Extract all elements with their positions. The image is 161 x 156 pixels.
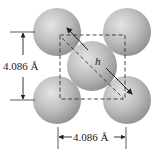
atom-center — [67, 41, 117, 91]
atom-bottom-left — [33, 76, 81, 124]
horizontal-dimension-label: 4.086 Å — [73, 131, 108, 143]
atom-top-left — [33, 8, 81, 56]
atom-top-right — [103, 8, 151, 56]
atom-bottom-right — [103, 76, 151, 124]
diagonal-h-label: h — [95, 55, 101, 67]
vertical-dimension-label: 4.086 Å — [3, 60, 38, 72]
